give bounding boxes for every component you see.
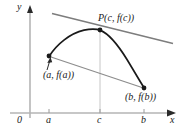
point-marker-a (47, 54, 52, 59)
mean-value-theorem-figure: P(c, f(c)) (a, f(a)) (b, f(b)) 0 a c b x… (0, 0, 185, 132)
point-label-a: (a, f(a)) (43, 70, 74, 80)
x-tick-label-c: c (97, 115, 101, 125)
x-tick-label-b: b (141, 115, 146, 125)
point-label-P: P(c, f(c)) (98, 13, 134, 23)
y-axis-label: y (17, 2, 21, 12)
point-marker-c (98, 28, 103, 33)
origin-label: 0 (17, 115, 22, 125)
y-axis-arrow-icon (27, 5, 33, 13)
figure-canvas (0, 0, 185, 132)
x-axis-label: x (170, 115, 174, 125)
point-marker-b (142, 86, 147, 91)
x-tick-label-a: a (46, 115, 51, 125)
point-label-b: (b, f(b)) (125, 92, 156, 102)
